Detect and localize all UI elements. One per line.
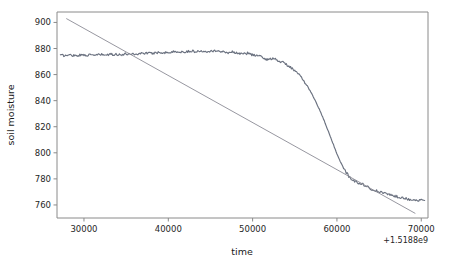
y-tick-label: 880 — [35, 44, 51, 54]
plot-frame — [57, 12, 428, 218]
y-tick-label: 840 — [35, 96, 51, 106]
y-tick-label: 860 — [35, 70, 51, 80]
x-tick-label: 50000 — [239, 224, 266, 234]
x-tick-label: 30000 — [70, 224, 97, 234]
y-tick-label: 900 — [35, 17, 51, 27]
chart-figure: 760780800820840860880900 300004000050000… — [0, 0, 451, 266]
x-axis-title: time — [231, 246, 253, 257]
series-group — [60, 19, 424, 214]
y-tick-label: 780 — [35, 174, 51, 184]
y-tick-group: 760780800820840860880900 — [35, 17, 57, 210]
soil-moisture-series — [60, 50, 424, 201]
y-tick-label: 820 — [35, 122, 51, 132]
x-tick-group: 3000040000500006000070000 — [70, 218, 434, 234]
y-axis-title: soil moisture — [5, 84, 16, 145]
linear-fit-line — [66, 19, 415, 214]
x-tick-label: 40000 — [155, 224, 182, 234]
x-tick-label: 60000 — [323, 224, 350, 234]
chart-svg: 760780800820840860880900 300004000050000… — [0, 0, 451, 266]
y-tick-label: 760 — [35, 200, 51, 210]
x-axis-offset-label: +1.5188e9 — [383, 236, 428, 245]
x-tick-label: 70000 — [408, 224, 435, 234]
y-tick-label: 800 — [35, 148, 51, 158]
